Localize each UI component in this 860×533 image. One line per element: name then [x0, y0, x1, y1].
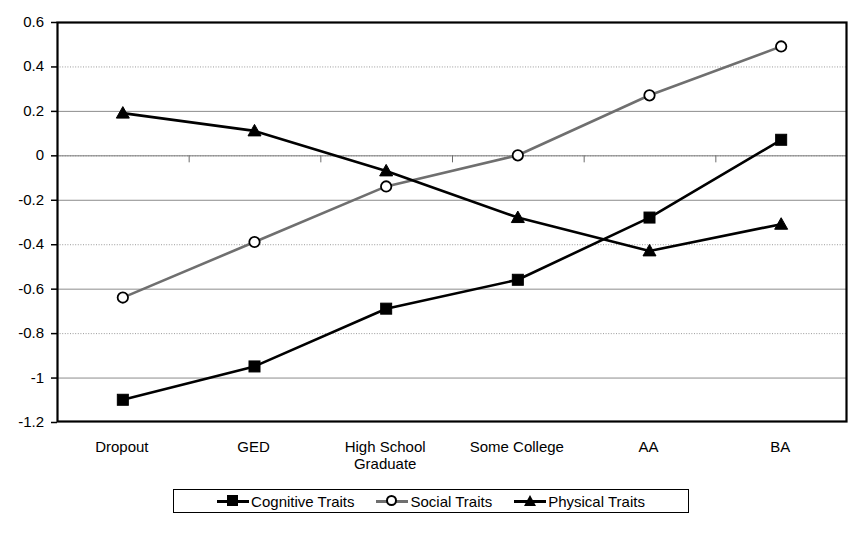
x-axis-tick-label-line: AA [579, 438, 719, 455]
legend-swatch-icon [217, 494, 249, 508]
data-point [117, 394, 128, 405]
legend-entry-social-traits[interactable]: Social Traits [376, 494, 492, 509]
x-axis-tick-label: GED [184, 438, 324, 455]
triangle-marker-icon [524, 495, 536, 506]
x-axis-tick-label: BA [710, 438, 850, 455]
x-axis-tick-label-line: Dropout [52, 438, 192, 455]
x-axis-tick-label: High SchoolGraduate [315, 438, 455, 472]
x-axis-tick-label-line: High School [315, 438, 455, 455]
circle-marker-icon [386, 495, 397, 506]
data-point [644, 212, 655, 223]
x-axis-tick-label: Dropout [52, 438, 192, 455]
x-axis-tick-label-line: GED [184, 438, 324, 455]
legend-swatch-icon [514, 494, 546, 508]
x-axis-tick-label-line: Graduate [315, 455, 455, 472]
x-axis-tick-label: Some College [447, 438, 587, 455]
data-point [381, 303, 392, 314]
data-point [512, 274, 523, 285]
legend-swatch-icon [376, 494, 408, 508]
data-point [249, 361, 260, 372]
square-marker-icon [227, 495, 238, 506]
data-point [776, 41, 786, 51]
data-point [644, 90, 654, 100]
chart-legend: Cognitive TraitsSocial TraitsPhysical Tr… [173, 489, 689, 513]
legend-entry-cognitive-traits[interactable]: Cognitive Traits [217, 494, 354, 509]
legend-entry-physical-traits[interactable]: Physical Traits [514, 494, 645, 509]
legend-label: Physical Traits [548, 494, 645, 509]
data-point [381, 181, 391, 191]
line-chart: 0.60.40.20-0.2-0.4-0.6-0.8-1-1.2 Dropout… [0, 0, 860, 533]
plot-background [57, 22, 847, 422]
x-axis: DropoutGEDHigh SchoolGraduateSome Colleg… [56, 432, 848, 482]
data-point [513, 150, 523, 160]
x-axis-tick-label-line: BA [710, 438, 850, 455]
legend-label: Social Traits [410, 494, 492, 509]
x-axis-tick-label-line: Some College [447, 438, 587, 455]
data-point [776, 134, 787, 145]
x-axis-tick-label: AA [579, 438, 719, 455]
data-point [118, 292, 128, 302]
legend-label: Cognitive Traits [251, 494, 354, 509]
data-point [249, 237, 259, 247]
